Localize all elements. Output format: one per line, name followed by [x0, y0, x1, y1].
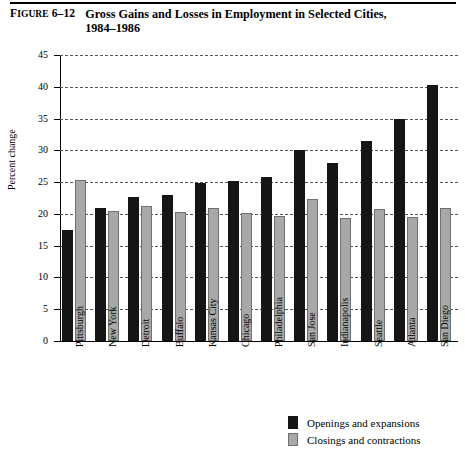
bar-group-chicago [226, 55, 259, 341]
bar-group-buffalo [160, 55, 193, 341]
figure-label-word-rest: IGURE [17, 9, 49, 19]
tick-mark-0 [54, 341, 60, 342]
bar-atlanta-openings [394, 119, 405, 341]
legend-item-closings: Closings and contractions [288, 431, 463, 448]
y-tick-label-0: 0 [26, 335, 48, 346]
y-tick-label-30: 30 [26, 144, 48, 155]
y-tick-label-20: 20 [26, 208, 48, 219]
figure-title-line1: Gross Gains and Losses in Employment in … [85, 7, 386, 21]
bar-buffalo-openings [162, 195, 173, 341]
bar-group-new-york [93, 55, 126, 341]
legend-item-openings: Openings and expansions [288, 414, 463, 431]
x-axis-line [60, 341, 458, 342]
bar-group-pittsburgh [60, 55, 93, 341]
legend-swatch-closings-icon [288, 433, 298, 446]
bar-group-seattle [359, 55, 392, 341]
y-tick-label-40: 40 [26, 81, 48, 92]
x-label-philadelphia: Philadelphia [273, 297, 284, 347]
figure-number: 6–12 [52, 7, 75, 19]
y-tick-label-35: 35 [26, 113, 48, 124]
x-label-chicago: Chicago [240, 314, 251, 347]
legend-label-closings: Closings and contractions [307, 434, 421, 446]
x-label-detroit: Detroit [140, 319, 151, 347]
bar-pittsburgh-openings [62, 230, 73, 341]
legend-swatch-openings-icon [288, 416, 298, 429]
bar-san-jose-openings [294, 150, 305, 341]
x-label-pittsburgh: Pittsburgh [74, 306, 85, 347]
bar-kansas-city-openings [195, 183, 206, 341]
chart-plot-wrapper: Percent change 051015202530354045 Pittsb… [0, 40, 465, 360]
bar-indianapolis-openings [327, 163, 338, 341]
plot-area [60, 55, 458, 341]
x-label-seattle: Seattle [373, 320, 384, 347]
header-rule [10, 2, 456, 4]
legend-label-openings: Openings and expansions [307, 417, 419, 429]
y-tick-label-15: 15 [26, 240, 48, 251]
bar-group-san-jose [292, 55, 325, 341]
bar-chicago-openings [228, 181, 239, 341]
bar-detroit-openings [128, 197, 139, 341]
y-tick-label-10: 10 [26, 271, 48, 282]
bar-philadelphia-openings [261, 177, 272, 341]
x-label-atlanta: Atlanta [406, 318, 417, 347]
bar-group-detroit [126, 55, 159, 341]
bar-seattle-openings [361, 141, 372, 341]
y-tick-label-5: 5 [26, 303, 48, 314]
figure-title: Gross Gains and Losses in Employment in … [85, 7, 386, 35]
y-axis-title: Percent change [6, 129, 17, 190]
x-label-san-diego: San Diego [439, 305, 450, 347]
figure-header: FIGURE 6–12 Gross Gains and Losses in Em… [10, 2, 458, 35]
x-label-san-jose: San Jose [306, 312, 317, 347]
bar-new-york-openings [95, 208, 106, 341]
y-tick-label-25: 25 [26, 176, 48, 187]
x-label-new-york: New York [107, 306, 118, 347]
y-tick-label-45: 45 [26, 49, 48, 60]
bar-group-san-diego [425, 55, 458, 341]
x-label-indianapolis: Indianapolis [339, 298, 350, 347]
chart-legend: Openings and expansions Closings and con… [288, 414, 463, 448]
bar-san-diego-openings [427, 85, 438, 341]
figure-title-line2: 1984–1986 [85, 21, 386, 35]
bar-group-atlanta [392, 55, 425, 341]
figure-label: FIGURE 6–12 [10, 7, 75, 19]
x-label-kansas-city: Kansas City [207, 298, 218, 347]
x-label-buffalo: Buffalo [174, 317, 185, 347]
